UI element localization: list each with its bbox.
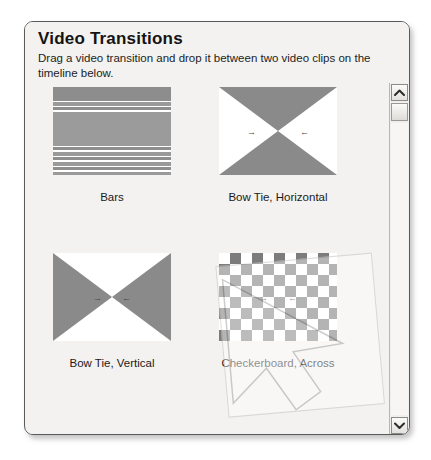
checkerboard-icon: [219, 253, 337, 341]
transition-item-bow-tie-horizontal[interactable]: → ← Bow Tie, Horizontal: [198, 87, 358, 245]
panel-instructions: Drag a video transition and drop it betw…: [38, 51, 378, 80]
vertical-scrollbar[interactable]: [389, 83, 408, 435]
transitions-grid: Bars → ← Bow Tie, Horizontal → ←: [26, 83, 378, 435]
transition-item-bars[interactable]: Bars: [32, 87, 192, 245]
video-transitions-panel: Video Transitions Drag a video transitio…: [24, 21, 410, 435]
arrow-right-icon: →: [259, 294, 268, 303]
chevron-up-icon: [394, 89, 405, 96]
bowtie-vertical-thumbnail[interactable]: → ←: [53, 253, 171, 341]
triangle-right-icon: [53, 253, 112, 341]
scrollbar-thumb[interactable]: [391, 103, 408, 121]
triangle-up-icon: [219, 131, 337, 175]
triangle-down-icon: [219, 87, 337, 131]
checkerboard-thumbnail[interactable]: → ←: [219, 253, 337, 341]
chevron-down-icon: [394, 422, 405, 429]
transition-label: Checkerboard, Across: [198, 356, 358, 370]
arrow-right-icon: →: [247, 128, 256, 137]
transition-label: Bars: [32, 190, 192, 204]
arrow-left-icon: ←: [300, 128, 309, 137]
bars-stripes-overlay-icon: [53, 87, 171, 175]
transition-label: Bow Tie, Horizontal: [198, 190, 358, 204]
arrow-left-icon: ←: [288, 294, 297, 303]
arrow-left-icon: ←: [122, 294, 131, 303]
scroll-up-button[interactable]: [391, 84, 408, 101]
scrollbar-track[interactable]: [391, 123, 408, 415]
transition-item-bow-tie-vertical[interactable]: → ← Bow Tie, Vertical: [32, 253, 192, 411]
page-title: Video Transitions: [38, 28, 397, 50]
panel-header: Video Transitions Drag a video transitio…: [25, 22, 409, 83]
triangle-left-icon: [112, 253, 171, 341]
bars-thumbnail[interactable]: [53, 87, 171, 175]
transitions-scroll-area[interactable]: Bars → ← Bow Tie, Horizontal → ←: [26, 83, 410, 435]
transition-item-checkerboard-across[interactable]: → ← Checkerboard, Across: [198, 253, 358, 411]
transition-label: Bow Tie, Vertical: [32, 356, 192, 370]
scroll-down-button[interactable]: [391, 417, 408, 434]
bowtie-horizontal-thumbnail[interactable]: → ←: [219, 87, 337, 175]
arrow-right-icon: →: [93, 294, 102, 303]
